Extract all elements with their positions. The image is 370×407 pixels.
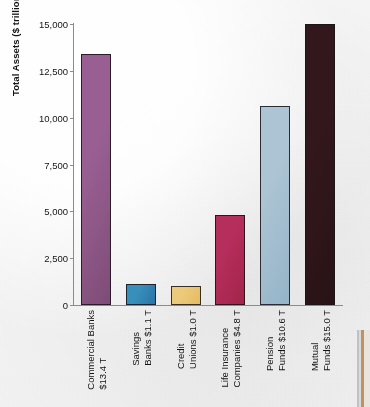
y-axis-title: Total Assets ($ trillions): [10, 0, 21, 96]
y-tick-label: 12,500: [39, 65, 68, 76]
bar[interactable]: [260, 106, 290, 305]
bar-sheen: [82, 55, 110, 304]
bar[interactable]: [215, 215, 245, 305]
y-tick-mark: [70, 305, 74, 306]
x-category-line1: Pension: [264, 337, 275, 371]
x-category-line2: Unions $1.0 T: [186, 310, 198, 369]
bar-sheen: [216, 216, 244, 304]
bar-sheen: [127, 285, 155, 304]
bar[interactable]: [171, 286, 201, 305]
y-tick-label: 15,000: [39, 19, 68, 30]
y-tick-mark: [70, 165, 74, 166]
bar[interactable]: [126, 284, 156, 305]
x-category-line1: Credit: [174, 344, 185, 369]
x-category-line1: Commercial Banks: [85, 310, 96, 390]
bar[interactable]: [305, 24, 335, 305]
x-category-text: Life InsuranceCompanies $4.8 T: [219, 310, 242, 387]
bar-chart: Total Assets ($ trillions) 02,5005,0007,…: [0, 0, 370, 407]
y-tick-label: 5,000: [44, 206, 68, 217]
x-category-line1: Life Insurance: [219, 328, 230, 388]
x-category-text: PensionFunds $10.6 T: [264, 310, 287, 371]
bar-sheen: [172, 287, 200, 304]
x-category-line2: Banks $1.1 T: [141, 310, 153, 366]
x-category-text: Commercial Banks$13.4 T: [85, 310, 108, 390]
x-category-line2: Companies $4.8 T: [230, 310, 242, 387]
y-tick-label: 7,500: [44, 159, 68, 170]
y-tick-mark: [70, 71, 74, 72]
bar[interactable]: [81, 54, 111, 305]
bar-sheen: [261, 107, 289, 304]
x-category-line2: $13.4 T: [96, 310, 108, 390]
x-category-text: CreditUnions $1.0 T: [174, 310, 197, 369]
x-category-line1: Mutual: [308, 343, 319, 372]
x-category-text: SavingsBanks $1.1 T: [130, 310, 153, 366]
bar-sheen: [306, 25, 334, 304]
x-axis-line: [73, 305, 343, 306]
y-tick-label: 2,500: [44, 253, 68, 264]
y-tick-label: 0: [63, 300, 68, 311]
x-category-line2: Funds $15.0 T: [320, 310, 332, 371]
y-tick-mark: [70, 24, 74, 25]
scan-artifact-strip: [359, 330, 370, 407]
x-category-line2: Funds $10.6 T: [275, 310, 287, 371]
y-tick-mark: [70, 258, 74, 259]
y-tick-label: 10,000: [39, 112, 68, 123]
y-tick-mark: [70, 118, 74, 119]
plot-area: 02,5005,0007,50010,00012,50015,000: [74, 24, 342, 305]
x-category-line1: Savings: [130, 332, 141, 366]
y-tick-mark: [70, 211, 74, 212]
x-category-text: MutualFunds $15.0 T: [308, 310, 331, 371]
